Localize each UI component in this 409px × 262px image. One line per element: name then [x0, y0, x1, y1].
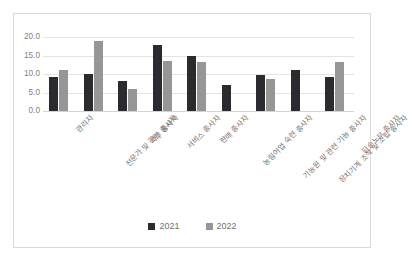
chart-legend: 20212022 — [0, 222, 385, 231]
bar-2021 — [256, 75, 265, 111]
x-axis-category-label: 서비스 종사자 — [186, 114, 223, 151]
legend-item-2021[interactable]: 2021 — [148, 222, 179, 231]
bar-2021 — [84, 74, 93, 111]
y-axis-tick-label: 0.0 — [12, 107, 40, 115]
y-axis-tick-label: 20.0 — [12, 33, 40, 41]
bar-series-layer — [43, 37, 354, 111]
bar-2021 — [118, 81, 127, 111]
bar-2021 — [222, 85, 231, 111]
legend-item-2022[interactable]: 2022 — [206, 222, 237, 231]
y-axis-tick-label: 15.0 — [12, 51, 40, 59]
bar-group — [181, 37, 216, 111]
x-axis-category-label: 판매 종사자 — [218, 114, 250, 146]
bar-2022 — [163, 61, 172, 111]
bar-2022 — [128, 89, 137, 111]
bar-group — [216, 37, 251, 111]
legend-label: 2022 — [217, 222, 237, 231]
bar-group — [250, 37, 285, 111]
x-axis-category-label: 관리자 — [75, 114, 96, 135]
bar-2021 — [153, 45, 162, 111]
bar-2022 — [335, 62, 344, 111]
bar-2022 — [197, 62, 206, 111]
legend-swatch-icon — [148, 223, 155, 230]
bar-2021 — [187, 56, 196, 112]
x-axis-category-label: 농림어업 숙련 종사자 — [262, 114, 315, 167]
legend-swatch-icon — [206, 223, 213, 230]
y-axis-tick-labels: 20.015.010.05.00.0 — [8, 37, 40, 111]
bar-group — [112, 37, 147, 111]
bar-2022 — [94, 41, 103, 111]
bar-group — [147, 37, 182, 111]
bar-group — [78, 37, 113, 111]
bar-2021 — [325, 77, 334, 111]
bar-2021 — [49, 77, 58, 111]
x-axis-category-labels: 관리자전문가 및 관련 종사자사무 종사자서비스 종사자판매 종사자농림어업 숙… — [43, 112, 354, 212]
bar-group — [319, 37, 354, 111]
y-axis-tick-label: 5.0 — [12, 88, 40, 96]
bar-group — [285, 37, 320, 111]
bar-2022 — [266, 79, 275, 111]
legend-label: 2021 — [159, 222, 179, 231]
bar-2021 — [291, 70, 300, 111]
bar-2022 — [59, 70, 68, 111]
bar-group — [43, 37, 78, 111]
y-axis-tick-label: 10.0 — [12, 70, 40, 78]
